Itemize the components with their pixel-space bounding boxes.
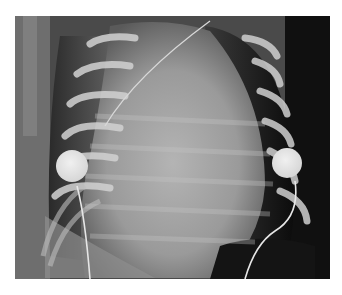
right-electrode: [272, 148, 302, 178]
xray-graphic: [15, 16, 330, 279]
left-electrode: [56, 150, 88, 182]
xray-image: [15, 16, 330, 279]
